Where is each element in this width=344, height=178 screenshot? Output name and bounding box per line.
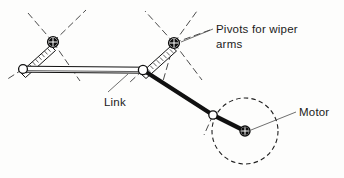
pivots-label-leader	[181, 29, 213, 42]
wiper-linkage-figure: Windscreen wiper linkage mechanism	[0, 0, 344, 178]
main-link-bar	[23, 66, 143, 73]
left-link-joint	[19, 65, 28, 74]
link-label-leader	[108, 74, 128, 92]
motor-label-leader	[251, 112, 296, 130]
right-pivot	[169, 38, 180, 49]
motor-label: Motor	[299, 106, 329, 118]
pivots-label-line1: Pivots for wiper	[216, 23, 298, 35]
left-pivot-ray-down-right	[53, 42, 80, 81]
right-pivot-ray-up-left	[145, 11, 174, 43]
left-pivot-ray-up-right	[53, 10, 86, 42]
motor-shaft-pivot	[240, 126, 250, 136]
pivots-label-line2: arms	[216, 38, 242, 50]
connecting-rod	[143, 70, 213, 115]
wiper-linkage-diagram: Windscreen wiper linkage mechanism	[0, 0, 344, 178]
crank-pin-joint	[209, 111, 217, 119]
left-pivot	[48, 37, 59, 48]
link-label: Link	[104, 96, 126, 108]
center-joint	[138, 65, 147, 74]
right-pivot-ray-down-right	[174, 43, 202, 80]
main-link-bar-body	[23, 66, 143, 73]
